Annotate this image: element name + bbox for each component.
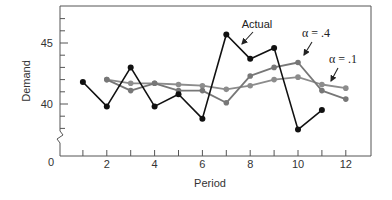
annotation-alpha-0-1: α = .1 xyxy=(329,52,357,66)
data-point xyxy=(271,45,277,51)
data-point xyxy=(343,96,349,102)
data-point xyxy=(224,100,230,106)
x-tick-label: 10 xyxy=(292,158,304,170)
annotations: Actualα = .4α = .1 xyxy=(242,18,357,81)
data-point xyxy=(104,77,110,83)
data-point xyxy=(319,82,325,88)
data-point xyxy=(247,73,253,79)
arrow-icon xyxy=(242,32,253,44)
data-point xyxy=(223,31,229,37)
data-point xyxy=(128,80,134,86)
data-point xyxy=(128,88,134,94)
data-point xyxy=(224,87,230,93)
data-point xyxy=(295,127,301,133)
annotation-actual: Actual xyxy=(242,18,273,30)
data-point xyxy=(152,103,158,109)
y-tick-label: 40 xyxy=(41,98,53,110)
y-axis-ticks: 4045 xyxy=(41,19,68,129)
x-origin-label: 0 xyxy=(48,156,54,168)
data-point xyxy=(295,60,301,66)
data-point xyxy=(295,74,301,80)
data-point xyxy=(176,82,182,88)
data-point xyxy=(200,88,206,94)
x-axis-title: Period xyxy=(194,177,226,189)
data-point xyxy=(343,85,349,91)
arrow-icon xyxy=(304,42,312,55)
x-tick-label: 8 xyxy=(247,158,253,170)
y-axis-title: Demand xyxy=(20,60,32,102)
series-actual xyxy=(80,31,325,132)
x-tick-label: 4 xyxy=(152,158,158,170)
data-point xyxy=(80,79,86,85)
data-point xyxy=(152,80,158,86)
data-point xyxy=(247,56,253,62)
data-point xyxy=(247,83,253,89)
data-point xyxy=(319,107,325,113)
y-tick-label: 45 xyxy=(41,37,53,49)
x-tick-label: 2 xyxy=(104,158,110,170)
data-point xyxy=(128,64,134,70)
data-point xyxy=(271,77,277,83)
arrow-icon xyxy=(331,68,338,81)
x-axis-ticks: 24681012 xyxy=(83,150,352,170)
annotation-alpha-0-4: α = .4 xyxy=(302,26,330,40)
series-layer xyxy=(80,31,349,132)
data-point xyxy=(319,88,325,94)
x-tick-label: 6 xyxy=(199,158,205,170)
data-point xyxy=(199,116,205,122)
data-point xyxy=(271,65,277,71)
data-point xyxy=(104,103,110,109)
data-point xyxy=(176,91,182,97)
x-tick-label: 12 xyxy=(340,158,352,170)
y-axis-line xyxy=(57,6,63,156)
exponential-smoothing-chart: 4045 24681012 Actualα = .4α = .1 Demand … xyxy=(0,0,392,200)
data-point xyxy=(200,83,206,89)
